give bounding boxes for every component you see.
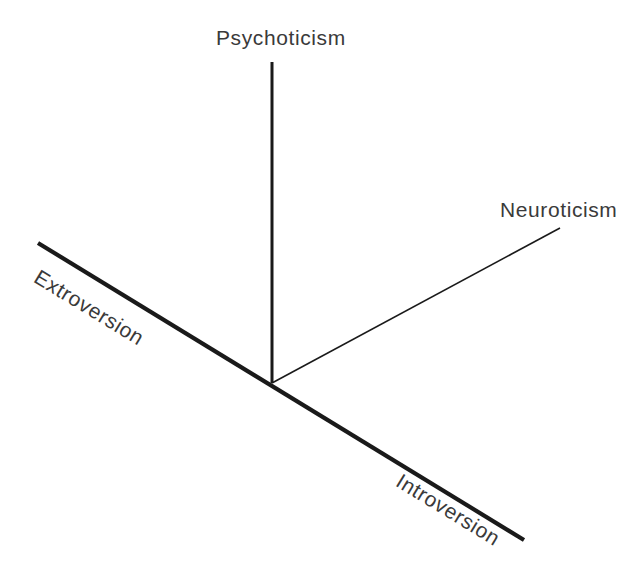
personality-dimensions-figure: Psychoticism Neuroticism Extroversion In…	[0, 0, 633, 579]
axes-drawing	[0, 0, 633, 579]
psychoticism-axis-label: Psychoticism	[216, 27, 346, 48]
extroversion-introversion-axis-line	[38, 243, 524, 540]
neuroticism-axis-line	[272, 228, 560, 383]
neuroticism-axis-label: Neuroticism	[500, 199, 617, 220]
